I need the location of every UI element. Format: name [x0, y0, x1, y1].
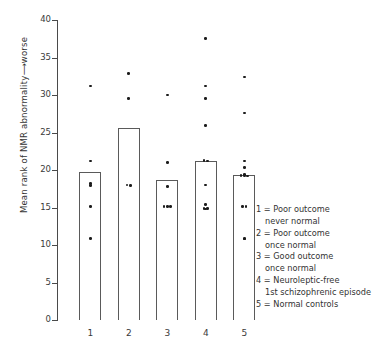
data-point	[243, 174, 246, 177]
y-tick-label: 30	[40, 89, 51, 99]
y-tick-mark	[52, 208, 58, 209]
data-point	[243, 112, 246, 115]
plot-area: 0510152025303540 12345	[57, 20, 247, 320]
x-tick-label-2: 2	[126, 328, 132, 338]
legend-item-2: 2 = Poor outcome	[256, 228, 392, 240]
legend-item-3-continued: once normal	[256, 263, 392, 275]
legend-item-3: 3 = Good outcome	[256, 251, 392, 263]
y-tick-label: 10	[40, 239, 51, 249]
bar-5	[233, 175, 255, 320]
data-point	[241, 205, 244, 208]
y-tick-label: 25	[40, 127, 51, 137]
y-tick-mark	[52, 283, 58, 284]
x-tick-label-3: 3	[164, 328, 170, 338]
bar-1	[79, 172, 101, 320]
data-point	[127, 72, 130, 75]
data-point	[243, 76, 246, 79]
y-tick-label: 5	[46, 277, 51, 287]
data-point	[204, 37, 207, 40]
y-tick-label: 40	[40, 14, 51, 24]
chart-figure: Mean rank of NMR abnormality⟶worse 05101…	[0, 0, 392, 349]
data-point	[204, 97, 207, 100]
data-point	[240, 174, 243, 177]
data-point	[243, 166, 246, 169]
y-tick-label: 0	[46, 314, 51, 324]
y-tick-mark	[52, 58, 58, 59]
legend-item-1: 1 = Poor outcome	[256, 204, 392, 216]
data-point	[129, 184, 132, 187]
y-tick-mark	[52, 20, 58, 21]
y-tick-mark	[52, 95, 58, 96]
legend-item-4: 4 = Neuroleptic-free	[256, 275, 392, 287]
data-point	[166, 205, 169, 208]
data-point	[89, 237, 92, 240]
data-point	[166, 161, 169, 164]
y-tick-mark	[52, 245, 58, 246]
y-axis-label: Mean rank of NMR abnormality⟶worse	[19, 25, 29, 225]
data-point	[89, 182, 92, 185]
legend-item-1-continued: never normal	[256, 216, 392, 228]
legend-item-5: 5 = Normal controls	[256, 299, 392, 311]
x-tick-label-1: 1	[87, 328, 93, 338]
data-point	[127, 97, 130, 100]
y-tick-mark	[52, 133, 58, 134]
data-point	[89, 160, 92, 163]
data-point	[203, 159, 206, 162]
data-point	[243, 160, 246, 163]
data-point	[204, 85, 207, 88]
bar-3	[156, 180, 178, 320]
y-tick-label: 20	[40, 164, 51, 174]
y-tick-label: 15	[40, 202, 51, 212]
y-tick-label: 35	[40, 52, 51, 62]
data-point	[169, 205, 172, 208]
legend-item-4-continued: 1st schizophrenic episode	[256, 287, 392, 299]
data-point	[243, 238, 246, 241]
legend: 1 = Poor outcomenever normal2 = Poor out…	[256, 204, 392, 311]
data-point	[204, 203, 207, 206]
x-tick-label-5: 5	[241, 328, 247, 338]
y-tick-mark	[52, 170, 58, 171]
data-point	[163, 205, 166, 208]
bar-2	[118, 128, 140, 320]
data-point	[89, 184, 92, 187]
x-tick-label-4: 4	[203, 328, 209, 338]
legend-item-2-continued: once normal	[256, 240, 392, 252]
data-point	[89, 205, 92, 208]
data-point	[166, 185, 169, 188]
data-point	[204, 124, 207, 127]
data-point	[89, 85, 92, 88]
data-point	[166, 94, 169, 97]
y-tick-mark	[52, 320, 58, 321]
